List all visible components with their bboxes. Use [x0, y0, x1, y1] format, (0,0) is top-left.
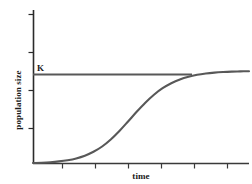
- logistic-growth-chart: population size time K: [0, 0, 252, 184]
- x-axis-label: time: [132, 171, 149, 181]
- carrying-capacity-label: K: [37, 63, 44, 73]
- y-axis-label: population size: [13, 70, 23, 129]
- plot-canvas: population size time K: [0, 0, 252, 184]
- chart-background: [0, 0, 252, 184]
